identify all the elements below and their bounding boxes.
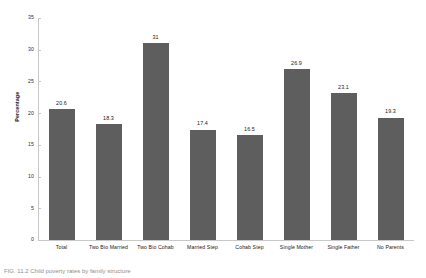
plot-area: 20.618.33117.416.526.923.119.3 <box>38 18 414 240</box>
bar-group: 23.1 <box>320 18 367 240</box>
bar-group: 18.3 <box>85 18 132 240</box>
bar-group: 19.3 <box>367 18 414 240</box>
bar-group: 31 <box>132 18 179 240</box>
bar[interactable] <box>96 124 122 240</box>
bar-value-label: 26.9 <box>291 61 302 66</box>
x-axis-label: Single Father <box>320 245 367 250</box>
y-tick-label: 15 <box>0 142 34 147</box>
y-tick-label: 25 <box>0 79 34 84</box>
bar[interactable] <box>331 93 357 240</box>
x-axis-label: Two Bio Married <box>85 245 132 250</box>
bar-value-label: 17.4 <box>197 121 208 126</box>
y-tick-label: 20 <box>0 111 34 116</box>
bar[interactable] <box>284 69 310 240</box>
bar-value-label: 19.3 <box>385 109 396 114</box>
x-axis-label: Total <box>38 245 85 250</box>
bar-group: 20.6 <box>38 18 85 240</box>
bar-value-label: 18.3 <box>103 116 114 121</box>
bar-group: 26.9 <box>273 18 320 240</box>
bar[interactable] <box>190 130 216 240</box>
y-axis-title: Percentage <box>15 77 20 137</box>
y-tick-mark <box>39 240 41 241</box>
x-axis-label: No Parents <box>367 245 414 250</box>
bar-group: 16.5 <box>226 18 273 240</box>
y-tick-label: 0 <box>0 237 34 242</box>
x-axis-label: Single Mother <box>273 245 320 250</box>
y-tick-label: 35 <box>0 15 34 20</box>
figure-caption: FIG. 11.2 Child poverty rates by family … <box>4 268 131 275</box>
bar-value-label: 23.1 <box>338 85 349 90</box>
x-axis-label: Two Bio Cohab <box>132 245 179 250</box>
bar[interactable] <box>143 43 169 240</box>
y-tick-label: 10 <box>0 174 34 179</box>
bar[interactable] <box>378 118 404 240</box>
bar-value-label: 20.6 <box>56 101 67 106</box>
figure-container: Percentage 05101520253035 20.618.33117.4… <box>0 0 426 278</box>
bar-value-label: 16.5 <box>244 127 255 132</box>
x-axis-label: Cohab Step <box>226 245 273 250</box>
x-axis-label: Married Step <box>179 245 226 250</box>
bar-value-label: 31 <box>152 35 158 40</box>
bar[interactable] <box>237 135 263 240</box>
bar[interactable] <box>49 109 75 240</box>
x-axis-line <box>38 240 414 241</box>
y-tick-label: 30 <box>0 47 34 52</box>
y-tick-label: 5 <box>0 206 34 211</box>
bar-group: 17.4 <box>179 18 226 240</box>
